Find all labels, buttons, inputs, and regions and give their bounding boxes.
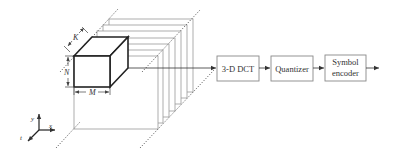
block-symbol-encoder: Symbol encoder xyxy=(325,55,366,81)
cube-front-face xyxy=(74,56,110,87)
block-symbol-encoder-label-line1: Symbol xyxy=(332,57,359,67)
block-quantizer-label: Quantizer xyxy=(275,64,309,74)
axis-label-y: y xyxy=(30,115,35,123)
block-quantizer: Quantizer xyxy=(271,56,313,81)
dimension-label-n: N xyxy=(63,68,70,77)
block-3d-dct: 3-D DCT xyxy=(217,56,259,81)
axis-label-t: t xyxy=(20,134,23,142)
dimension-label-k: K xyxy=(72,33,79,42)
block-symbol-encoder-label-line2: encoder xyxy=(332,68,359,78)
t-axis-arrow xyxy=(28,130,39,141)
axis-label-x: x xyxy=(48,122,53,130)
dct-compression-diagram: M N K y x t 3-D DCT Quantizer Symbol enc… xyxy=(0,0,396,155)
dimension-label-m: M xyxy=(88,88,97,97)
block-3d-dct-label: 3-D DCT xyxy=(222,64,255,74)
